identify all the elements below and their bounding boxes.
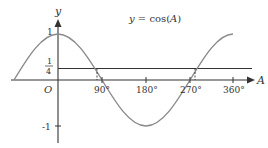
- cosine-diagram: y A O 1 1 4 -1 90° 180° 270° 360° y = co…: [0, 0, 268, 148]
- plot-svg: y A O 1 1 4 -1 90° 180° 270° 360° y = co…: [0, 0, 268, 148]
- y-tick-minus-one: -1: [42, 122, 51, 132]
- y-axis-arrow-icon: [55, 19, 62, 27]
- x-tick-label-90: 90°: [94, 85, 110, 95]
- y-tick-quarter-num: 1: [47, 57, 52, 66]
- x-axis-label: A: [256, 74, 265, 87]
- x-axis-arrow-icon: [247, 77, 255, 84]
- y-axis-label: y: [54, 5, 62, 18]
- x-tick-label-360: 360°: [223, 85, 245, 95]
- x-tick-label-270: 270°: [180, 85, 202, 95]
- y-tick-quarter-den: 4: [46, 67, 51, 76]
- y-tick-one: 1: [47, 27, 53, 37]
- origin-label: O: [44, 84, 52, 95]
- equation-label: y = cos(A): [128, 13, 181, 24]
- x-tick-label-180: 180°: [136, 85, 158, 95]
